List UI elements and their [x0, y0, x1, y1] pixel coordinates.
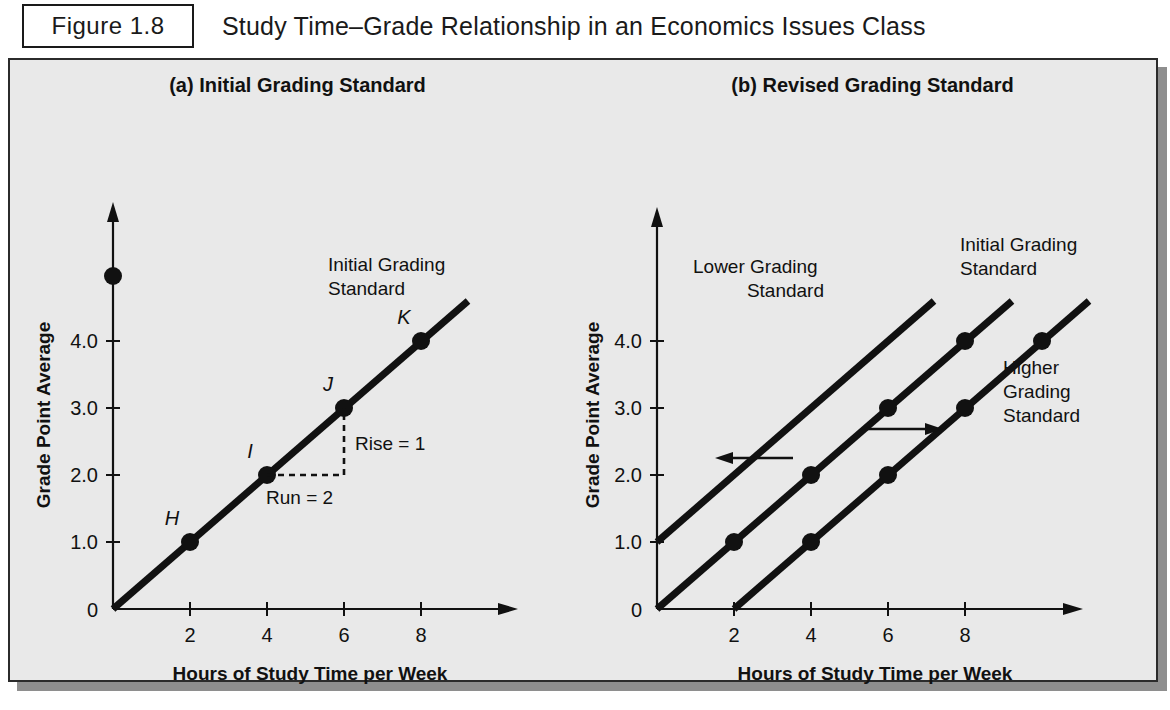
panel-a-xtick-label-2: 2: [184, 624, 195, 646]
initial-grading-standard-label-line1: Initial Grading: [328, 254, 445, 275]
panel-a: (a) Initial Grading Standard 4.0 3.0 2.: [10, 60, 585, 684]
panel-b-initial-point-8: [956, 332, 974, 350]
panel-b-initial-point-4: [802, 466, 820, 484]
panel-b-initial-point-2: [725, 533, 743, 551]
panel-b-x-axis-label: Hours of Study Time per Week: [738, 663, 1013, 684]
panel-b-xtick-label-8: 8: [959, 624, 970, 646]
panel-b-ytick-label-2: 2.0: [614, 464, 642, 486]
lower-grading-standard-line: [657, 301, 934, 542]
lower-grading-standard-label-line2: Standard: [747, 280, 824, 301]
run-annotation-label: Run = 2: [266, 487, 333, 508]
panel-b-ytick-label-3: 3.0: [614, 397, 642, 419]
data-point-label-i: I: [247, 440, 253, 462]
panel-b-xtick-label-6: 6: [882, 624, 893, 646]
panel-b-y-axis-label: Grade Point Average: [585, 322, 603, 509]
panel-b-higher-point-8: [956, 399, 974, 417]
panel-b-plot: 4.0 3.0 2.0 1.0 0 2 4 6 8 Hours of Study…: [585, 60, 1160, 684]
data-point-label-k: K: [397, 306, 412, 328]
panel-a-ytick-label-3: 3.0: [70, 397, 98, 419]
panel-b-initial-label-line1: Initial Grading: [960, 234, 1077, 255]
rise-annotation-label: Rise = 1: [355, 433, 425, 454]
panel-b-xtick-label-4: 4: [805, 624, 816, 646]
panel-a-ytick-label-0: 0: [87, 599, 98, 621]
data-point-k: [412, 332, 430, 350]
panel-b-ytick-label-1: 1.0: [614, 531, 642, 553]
panel-b-ytick-label-0: 0: [631, 599, 642, 621]
panel-a-x-axis-arrowhead: [498, 603, 518, 615]
panel-b-y-axis-arrowhead: [651, 207, 663, 227]
panel-a-ytick-label-2: 2.0: [70, 464, 98, 486]
panel-b: (b) Revised Grading Standard 4.0 3.0 2.0…: [585, 60, 1160, 684]
higher-grading-standard-label-line1: Higher: [1003, 357, 1060, 378]
panel-b-initial-label-line2: Standard: [960, 258, 1037, 279]
panel-a-x-axis-label: Hours of Study Time per Week: [173, 663, 448, 684]
figure-number-badge: Figure 1.8: [22, 4, 194, 48]
higher-grading-standard-label-line3: Standard: [1003, 405, 1080, 426]
lower-grading-standard-label-line1: Lower Grading: [693, 256, 818, 277]
panel-a-ytick-label-4: 4.0: [70, 330, 98, 352]
panel-a-plot: 4.0 3.0 2.0 1.0 0 2 4 6 8 Hours of Study…: [10, 60, 585, 684]
higher-grading-standard-label-line2: Grading: [1003, 381, 1071, 402]
panel-a-y-axis-label: Grade Point Average: [33, 322, 54, 509]
panel-a-ytick-label-1: 1.0: [70, 531, 98, 553]
data-point-h: [181, 533, 199, 551]
panel-b-x-axis-arrowhead: [1063, 603, 1083, 615]
figure-frame: (a) Initial Grading Standard 4.0 3.0 2.: [8, 58, 1158, 682]
panel-a-xtick-label-4: 4: [261, 624, 272, 646]
figure-title-bar: Figure 1.8 Study Time–Grade Relationship…: [0, 0, 1170, 52]
figure-title: Study Time–Grade Relationship in an Econ…: [222, 12, 926, 41]
panel-a-xtick-label-8: 8: [415, 624, 426, 646]
y-axis-top-dot: [104, 267, 122, 285]
panel-b-higher-point-6: [879, 466, 897, 484]
panel-b-xtick-label-2: 2: [728, 624, 739, 646]
initial-grading-standard-label-line2: Standard: [328, 278, 405, 299]
panel-a-y-axis-arrowhead: [107, 202, 119, 222]
panel-b-higher-point-10: [1033, 332, 1051, 350]
panel-b-higher-point-4: [802, 533, 820, 551]
panel-b-initial-point-6: [879, 399, 897, 417]
panel-b-ytick-label-4: 4.0: [614, 330, 642, 352]
data-point-label-h: H: [165, 507, 180, 529]
figure-page: Figure 1.8 Study Time–Grade Relationship…: [0, 0, 1170, 710]
data-point-label-j: J: [322, 373, 334, 395]
panel-a-xtick-label-6: 6: [338, 624, 349, 646]
